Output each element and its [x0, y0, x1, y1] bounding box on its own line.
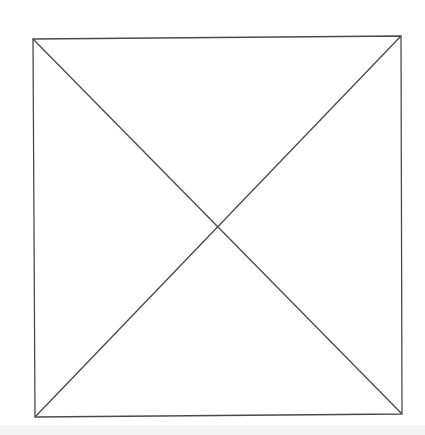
- bottom-margin-band: [0, 425, 425, 435]
- diagonal-top-right-to-bottom-left: [35, 36, 401, 417]
- square-with-diagonals-diagram: [0, 0, 425, 435]
